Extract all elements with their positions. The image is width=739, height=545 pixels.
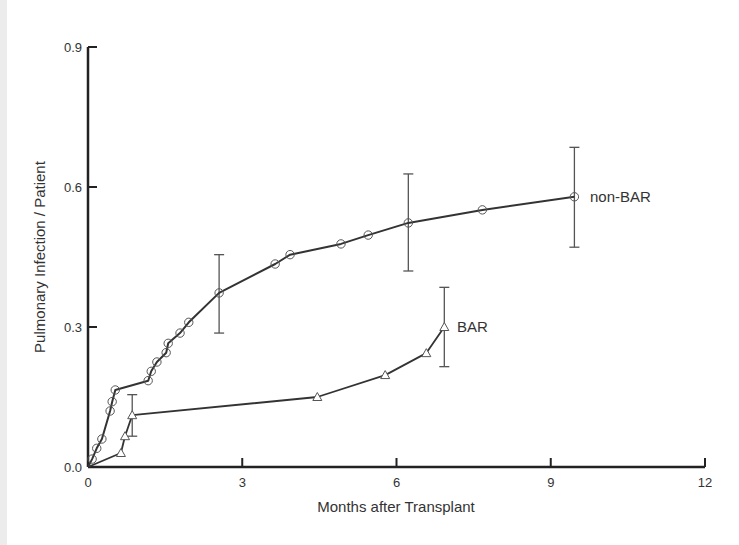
axes: 0369120.00.30.60.9 bbox=[64, 40, 712, 490]
x-tick-label: 9 bbox=[547, 475, 554, 490]
x-tick-label: 3 bbox=[239, 475, 246, 490]
series-line-non-bar bbox=[88, 197, 574, 467]
x-tick-label: 6 bbox=[393, 475, 400, 490]
error-bars bbox=[127, 147, 579, 436]
data-point-triangle bbox=[440, 323, 449, 331]
data-point-triangle bbox=[381, 371, 390, 379]
y-tick-label: 0.9 bbox=[64, 40, 82, 55]
line-chart: 0369120.00.30.60.9 Months after Transpla… bbox=[0, 0, 739, 545]
labels: Months after Transplant Pulmonary Infect… bbox=[31, 160, 651, 515]
series-markers bbox=[88, 193, 579, 464]
series-label-bar: BAR bbox=[457, 318, 488, 335]
data-point-triangle bbox=[116, 449, 125, 457]
series-line-bar bbox=[88, 327, 444, 467]
y-tick-label: 0.6 bbox=[64, 180, 82, 195]
series-lines bbox=[88, 197, 574, 467]
y-tick-label: 0.3 bbox=[64, 320, 82, 335]
y-axis-title: Pulmonary Infection / Patient bbox=[31, 160, 48, 353]
x-tick-label: 0 bbox=[84, 475, 91, 490]
series-label-non-bar: non-BAR bbox=[590, 188, 651, 205]
y-tick-label: 0.0 bbox=[64, 460, 82, 475]
x-tick-label: 12 bbox=[698, 475, 712, 490]
x-axis-title: Months after Transplant bbox=[317, 498, 475, 515]
